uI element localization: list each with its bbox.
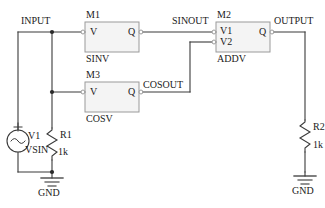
block-m1-ref-label: M1 <box>86 10 100 20</box>
junction-dot-gnd-left <box>50 170 54 174</box>
block-m1-model-label: SINV <box>86 54 109 64</box>
block-m3-pin-v <box>81 90 85 94</box>
block-m2-input1-pin-label: V1 <box>220 26 232 36</box>
block-m3-input-pin-label: V <box>90 87 97 97</box>
component-r1-ref-label: R1 <box>60 130 72 140</box>
component-v1-model-label: VSIN <box>25 145 48 155</box>
block-m3-model-label: COSV <box>86 114 113 124</box>
component-r2-value-label: 1k <box>313 140 323 150</box>
block-m2-input2-pin-label: V2 <box>220 37 232 47</box>
net-label-cosout: COSOUT <box>143 80 183 90</box>
resistor-r2-zigzag <box>300 120 310 152</box>
component-r1-value-label: 1k <box>58 147 68 157</box>
component-v1-ref-label: V1 <box>28 131 40 141</box>
junction-dot-cosv <box>50 90 54 94</box>
block-m1-input-pin-label: V <box>90 27 97 37</box>
block-m2-pin-v1 <box>212 30 216 34</box>
ground-label-left: GND <box>38 188 60 198</box>
block-m3-ref-label: M3 <box>86 70 100 80</box>
net-label-output: OUTPUT <box>274 16 313 26</box>
net-label-sinout: SINOUT <box>172 16 209 26</box>
ground-label-right: GND <box>292 186 314 196</box>
block-m1-pin-v <box>81 30 85 34</box>
junction-dot-input <box>50 30 54 34</box>
block-m2-pin-v2 <box>212 40 216 44</box>
schematic-canvas: INPUT SINOUT COSOUT OUTPUT M1 V Q SINV M… <box>0 0 325 208</box>
block-m2-pin-q <box>270 30 274 34</box>
block-m2-output-pin-label: Q <box>259 27 266 37</box>
ground-symbol-left <box>41 172 63 186</box>
block-m1-output-pin-label: Q <box>128 27 135 37</box>
block-m2-model-label: ADDV <box>217 54 246 64</box>
block-m1-pin-q <box>139 30 143 34</box>
schematic-drawing <box>0 0 325 208</box>
ground-symbol-right <box>294 172 316 184</box>
component-r2-ref-label: R2 <box>313 122 325 132</box>
net-label-input: INPUT <box>21 16 50 26</box>
block-m2-ref-label: M2 <box>217 10 231 20</box>
block-m3-pin-q <box>139 90 143 94</box>
resistor-r1-zigzag <box>47 128 57 160</box>
block-m3-output-pin-label: Q <box>128 87 135 97</box>
